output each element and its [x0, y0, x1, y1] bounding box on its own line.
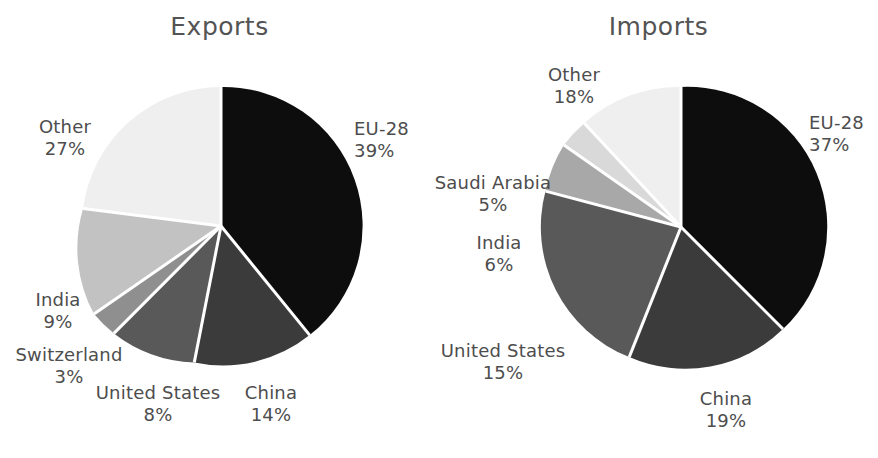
- exports-label-china-pct: 14%: [229, 404, 313, 426]
- imports-label-saudi-arabia-name: Saudi Arabia: [427, 172, 559, 194]
- imports-label-india-pct: 6%: [463, 254, 535, 276]
- imports-chart-panel: Imports EU-28: [439, 0, 878, 458]
- imports-label-china-pct: 19%: [684, 410, 768, 432]
- imports-label-eu28: EU-28 37%: [809, 112, 864, 156]
- imports-label-saudi-arabia: Saudi Arabia 5%: [427, 172, 559, 216]
- exports-label-eu28: EU-28 39%: [354, 118, 409, 162]
- imports-label-united-states-pct: 15%: [440, 362, 566, 384]
- imports-label-united-states: United States 15%: [440, 340, 566, 384]
- imports-label-india-name: India: [463, 232, 535, 254]
- exports-label-switzerland-name: Switzerland: [12, 344, 126, 366]
- exports-label-eu28-pct: 39%: [354, 140, 409, 162]
- imports-label-china: China 19%: [684, 388, 768, 432]
- exports-label-other-pct: 27%: [25, 138, 105, 160]
- exports-label-india-pct: 9%: [22, 311, 94, 333]
- imports-label-eu28-name: EU-28: [809, 112, 864, 134]
- imports-label-other-pct: 18%: [534, 86, 614, 108]
- exports-chart-panel: Exports EU: [0, 0, 439, 458]
- exports-label-switzerland-pct: 3%: [12, 366, 126, 388]
- exports-label-other: Other 27%: [25, 116, 105, 160]
- exports-label-united-states: United States 8%: [95, 382, 221, 426]
- imports-label-china-name: China: [684, 388, 768, 410]
- exports-label-switzerland: Switzerland 3%: [12, 344, 126, 388]
- imports-pie-svg: [439, 0, 878, 458]
- exports-label-china: China 14%: [229, 382, 313, 426]
- pie-chart-figure: Exports EU: [0, 0, 878, 458]
- exports-label-india-name: India: [22, 289, 94, 311]
- imports-label-other: Other 18%: [534, 64, 614, 108]
- exports-label-other-name: Other: [25, 116, 105, 138]
- imports-label-saudi-arabia-pct: 5%: [427, 194, 559, 216]
- imports-label-united-states-name: United States: [440, 340, 566, 362]
- exports-label-china-name: China: [229, 382, 313, 404]
- exports-label-india: India 9%: [22, 289, 94, 333]
- exports-label-united-states-pct: 8%: [95, 404, 221, 426]
- imports-label-eu28-pct: 37%: [809, 134, 864, 156]
- exports-label-eu28-name: EU-28: [354, 118, 409, 140]
- imports-label-other-name: Other: [534, 64, 614, 86]
- imports-label-india: India 6%: [463, 232, 535, 276]
